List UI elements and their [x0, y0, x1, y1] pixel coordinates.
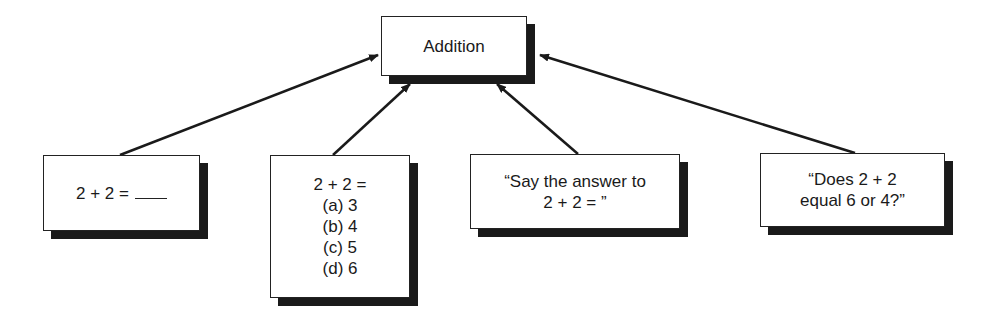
- node-oral-recall: “Say the answer to 2 + 2 = ”: [470, 154, 680, 229]
- oral-recall-line: 2 + 2 = ”: [543, 192, 606, 213]
- fill-in-text: 2 + 2 =: [76, 184, 129, 203]
- answer-blank: [135, 184, 167, 199]
- oral-choice-line: “Does 2 + 2: [808, 169, 896, 190]
- mc-option: (d) 6: [323, 258, 358, 279]
- root-label: Addition: [423, 36, 484, 57]
- mc-stem: 2 + 2 =: [314, 174, 367, 195]
- node-oral-choice: “Does 2 + 2 equal 6 or 4?”: [760, 153, 945, 227]
- oral-choice-line: equal 6 or 4?”: [800, 190, 905, 211]
- oral-recall-line: “Say the answer to: [504, 171, 646, 192]
- root-node-addition: Addition: [381, 16, 527, 76]
- mc-option: (c) 5: [323, 237, 357, 258]
- mc-option: (b) 4: [323, 216, 358, 237]
- edge-oral-choice: [540, 55, 855, 153]
- edge-fill-in: [120, 55, 378, 155]
- node-fill-in: 2 + 2 =: [43, 155, 200, 231]
- mc-option: (a) 3: [323, 195, 358, 216]
- edge-oral-recall: [497, 84, 578, 154]
- edge-multiple-choice: [333, 84, 410, 155]
- node-multiple-choice: 2 + 2 = (a) 3 (b) 4 (c) 5 (d) 6: [270, 155, 410, 298]
